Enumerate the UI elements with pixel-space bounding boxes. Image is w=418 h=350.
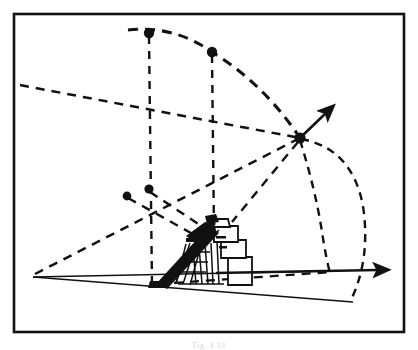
point-2-marker	[207, 47, 217, 57]
point-1-marker	[144, 28, 154, 38]
trajectory-diagram	[0, 0, 418, 350]
figure-page: Fig. 4.33	[0, 0, 418, 350]
machine-lower-block	[228, 257, 252, 285]
machine-ground-pivot	[148, 281, 165, 288]
point-5-marker	[123, 192, 132, 201]
point-3-marker	[294, 132, 305, 143]
point-4-marker	[144, 184, 153, 193]
